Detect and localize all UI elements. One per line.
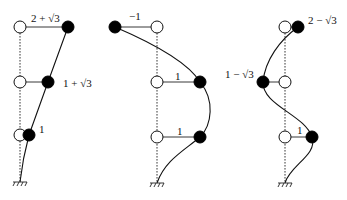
original-mass-top: [279, 21, 291, 33]
mode-1-bottom-label: 1: [39, 123, 45, 135]
original-mass-bottom: [279, 131, 291, 143]
original-mass-middle: [151, 76, 163, 88]
original-mass-top: [14, 21, 26, 33]
original-mass-top: [151, 21, 163, 33]
mode-shapes-diagram: 2 + √3 1 + √3 1 −1 1 1: [0, 0, 347, 200]
displaced-mass-middle: [257, 76, 269, 88]
mode-3-panel: 2 − √3 1 − √3 1: [225, 14, 337, 187]
original-mass-bottom: [151, 131, 163, 143]
ground-support: [13, 182, 27, 186]
mode-1-top-label: 2 + √3: [31, 12, 60, 24]
ground-support: [150, 183, 164, 187]
ground-support: [278, 183, 292, 187]
displaced-mass-top: [109, 21, 121, 33]
displaced-mass-middle: [194, 76, 206, 88]
deformed-shape-curve: [20, 27, 68, 182]
mode-2-bottom-label: 1: [177, 125, 183, 137]
mode-1-panel: 2 + √3 1 + √3 1: [13, 12, 92, 186]
displaced-mass-top: [62, 21, 74, 33]
mode-1-middle-label: 1 + √3: [63, 77, 92, 89]
mode-2-top-label: −1: [129, 10, 141, 22]
deformed-shape-curve: [115, 27, 210, 183]
mode-3-top-label: 2 − √3: [308, 14, 337, 26]
displaced-mass-bottom: [194, 131, 206, 143]
displaced-mass-middle: [42, 76, 54, 88]
displaced-mass-bottom: [23, 129, 35, 141]
deformed-shape-curve: [263, 27, 313, 183]
mode-3-middle-label: 1 − √3: [225, 68, 254, 80]
original-mass-middle: [14, 76, 26, 88]
displaced-mass-bottom: [306, 131, 318, 143]
mode-2-panel: −1 1 1: [109, 10, 210, 187]
displaced-mass-top: [292, 21, 304, 33]
mode-2-middle-label: 1: [175, 70, 181, 82]
original-mass-middle: [279, 76, 291, 88]
mode-3-bottom-label: 1: [297, 124, 303, 136]
